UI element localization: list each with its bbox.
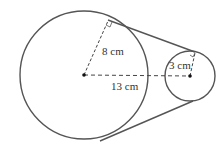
small-center-dot [188, 74, 192, 78]
lower-tangent-line [100, 101, 193, 141]
large-radius-label: 8 cm [102, 46, 124, 57]
center-distance-dashed [84, 75, 190, 76]
center-distance-label: 13 cm [111, 81, 138, 92]
diagram-canvas: 8 cm 3 cm 13 cm [0, 0, 221, 149]
small-radius-label: 3 cm [169, 60, 191, 71]
large-center-dot [82, 73, 86, 77]
diagram-svg [0, 0, 221, 149]
